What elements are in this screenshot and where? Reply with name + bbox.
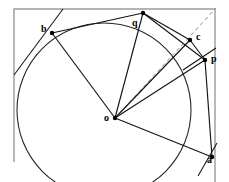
segment-b-q [52,13,143,33]
segment-p-a [205,60,212,157]
label-b: b [41,24,47,34]
vertex-dot-b [50,31,54,35]
geometry-figure: b q c p o a [0,0,229,182]
label-q: q [132,18,138,28]
label-o: o [104,113,109,123]
geometry-canvas [0,0,229,182]
label-a: a [207,155,212,165]
segment-o-c [115,40,190,118]
label-c: c [196,32,200,42]
label-p: p [211,54,217,64]
vertex-dot-p [203,58,207,62]
segment-o-b [52,33,115,118]
vertex-dot-o [113,116,117,120]
secant-through-b [14,9,63,75]
vertex-dot-c [188,38,192,42]
segment-o-a [115,118,212,157]
vertex-dots [50,11,214,159]
chords-group [52,13,212,157]
radii-group [52,13,212,157]
vertex-dot-q [141,11,145,15]
